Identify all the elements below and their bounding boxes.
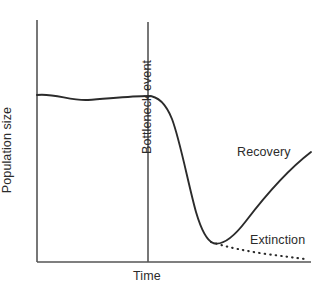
x-axis-label: Time — [133, 270, 161, 283]
population-curve — [37, 95, 311, 244]
y-axis-label-text: Population size — [1, 107, 14, 193]
y-axis-label: Population size — [0, 143, 59, 157]
recovery-label: Recovery — [237, 146, 291, 159]
population-bottleneck-diagram: Population size Time Bottleneck event Re… — [0, 0, 325, 295]
bottleneck-event-label-text: Bottleneck event — [141, 60, 154, 154]
bottleneck-event-label: Bottleneck event — [140, 53, 154, 161]
extinction-label: Extinction — [250, 234, 305, 247]
